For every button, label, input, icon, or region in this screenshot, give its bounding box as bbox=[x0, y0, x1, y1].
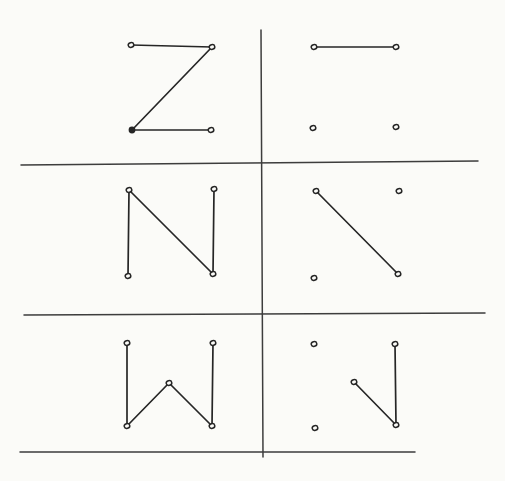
letter-dot bbox=[124, 423, 131, 429]
letter-dot bbox=[392, 341, 399, 347]
letter-dot bbox=[312, 425, 319, 431]
letter-stroke bbox=[213, 189, 214, 274]
letter-dot bbox=[166, 380, 173, 386]
letter-stimuli-figure bbox=[0, 0, 505, 481]
scanned-figure-page bbox=[0, 0, 505, 481]
letter-dot bbox=[208, 127, 215, 133]
letter-dot bbox=[128, 42, 135, 48]
letter-dot bbox=[211, 186, 218, 192]
letter-dot bbox=[393, 124, 400, 130]
letter-dot bbox=[310, 125, 317, 131]
letter-stroke bbox=[395, 344, 396, 425]
letter-dot bbox=[125, 273, 132, 279]
letter-dot bbox=[126, 187, 133, 193]
letter-stroke bbox=[128, 190, 129, 276]
letter-dot bbox=[209, 423, 216, 429]
letter-dot bbox=[395, 271, 402, 277]
letter-dot bbox=[210, 271, 217, 277]
letter-dot bbox=[313, 188, 320, 194]
letter-dot bbox=[393, 44, 400, 50]
letter-dot bbox=[351, 379, 358, 385]
letter-dot-filled bbox=[129, 127, 136, 134]
letter-dot bbox=[311, 44, 318, 50]
letter-dot bbox=[396, 188, 403, 194]
paper-background bbox=[0, 0, 505, 481]
letter-dot bbox=[311, 341, 318, 347]
letter-dot bbox=[124, 340, 131, 346]
letter-dot bbox=[209, 44, 216, 50]
letter-dot bbox=[210, 340, 217, 346]
letter-stroke bbox=[212, 343, 213, 426]
letter-dot bbox=[393, 422, 400, 428]
letter-dot bbox=[311, 275, 318, 281]
